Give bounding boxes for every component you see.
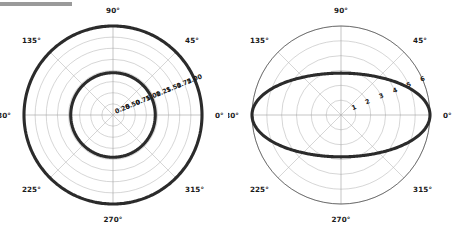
angular-tick-label-0: 0° [443,111,452,120]
angular-tick-label-90: 90° [106,6,120,15]
radial-tick-label-3: 3 [378,92,385,101]
angular-tick-label-135: 135° [22,36,41,45]
angular-tick-label-45: 45° [413,36,427,45]
radial-tick-label-1: 1 [350,103,357,112]
angular-tick-label-315: 315° [185,185,204,194]
angular-tick-label-45: 45° [185,36,199,45]
radial-tick-label-4: 4 [391,86,399,95]
angular-tick-label-180: 180° [0,111,11,120]
angular-tick-label-180: 180° [228,111,239,120]
right-polar-svg: 0°45°90°135°180°225°270°315°123456 [228,0,455,229]
angular-tick-label-90: 90° [334,6,348,15]
grid-spoke-225 [278,115,341,178]
left-polar-plot-panel: 0°45°90°135°180°225°270°315°0.250.500.75… [0,0,227,229]
angular-tick-label-270: 270° [104,215,123,224]
grid-spoke-135 [278,52,341,115]
angular-tick-label-315: 315° [413,185,432,194]
angular-tick-label-0: 0° [215,111,224,120]
left-polar-svg: 0°45°90°135°180°225°270°315°0.250.500.75… [0,0,227,229]
grid-spoke-135 [50,52,113,115]
angular-tick-label-135: 135° [250,36,269,45]
angular-tick-label-270: 270° [332,215,351,224]
angular-tick-label-225: 225° [22,185,41,194]
grid-spoke-315 [341,115,404,178]
grid-spoke-225 [50,115,113,178]
radial-tick-label-2: 2 [364,97,371,106]
grid-spoke-315 [113,115,176,178]
radial-tick-label-6: 6 [419,74,427,83]
right-polar-plot-panel: 0°45°90°135°180°225°270°315°123456 [228,0,455,229]
figure-canvas: 0°45°90°135°180°225°270°315°0.250.500.75… [0,0,455,229]
angular-tick-label-225: 225° [250,185,269,194]
